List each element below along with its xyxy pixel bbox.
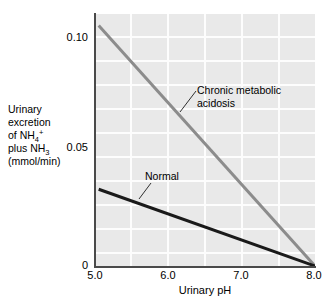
series-line-normal [99, 189, 315, 266]
x-tick-label-5.0: 5.0 [80, 270, 110, 281]
x-axis-line [94, 266, 316, 268]
series-line-chronic-metabolic-acidosis [99, 25, 315, 266]
x-axis-title: Urinary pH [95, 284, 315, 296]
annotation-normal: Normal [145, 170, 179, 183]
y-axis-title-line-2: excretion [8, 116, 88, 129]
y-axis-title-line-5: (mmol/min) [8, 155, 88, 168]
annotation-acidosis-line-1: Chronic metabolic [197, 84, 281, 97]
annotation-chronic-metabolic-acidosis: Chronic metabolic acidosis [197, 84, 281, 109]
y-axis-line [94, 13, 96, 267]
y-axis-title-line-1: Urinary [8, 103, 88, 116]
plot-area [95, 14, 315, 266]
x-tick-label-7.0: 7.0 [226, 270, 256, 281]
x-tick-label-8.0: 8.0 [299, 270, 329, 281]
y-axis-title-line-3: of NH4+ [8, 129, 88, 142]
x-tick-label-6.0: 6.0 [153, 270, 183, 281]
y-tick-label-0.10: 0.10 [54, 32, 88, 43]
annotation-acidosis-line-2: acidosis [197, 97, 281, 110]
chart-figure: 0.10 0.05 0 5.0 6.0 7.0 8.0 Urinary excr… [0, 0, 336, 300]
y-axis-title: Urinary excretion of NH4+ plus NH3 (mmol… [8, 103, 88, 168]
data-series-group [95, 14, 315, 266]
y-axis-title-line-4: plus NH3 [8, 142, 88, 155]
